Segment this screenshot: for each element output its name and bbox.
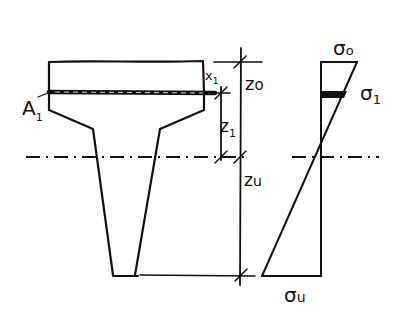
label-zu: zu <box>244 170 262 190</box>
label-z0: zo <box>245 73 264 94</box>
labels: A1 x1 zo z1 zu σo σ1 σu <box>22 36 381 307</box>
label-a1: A1 <box>22 96 43 124</box>
label-x1: x1 <box>205 68 218 86</box>
label-a1-leader <box>38 93 48 97</box>
web-right <box>135 129 160 275</box>
dim-line-z0-zu <box>240 48 241 285</box>
stress-diagram <box>262 62 357 276</box>
tick-bottom <box>235 269 247 281</box>
label-z1: z1 <box>220 116 236 140</box>
label-sigma-1: σ1 <box>360 81 381 107</box>
stress-layer-band <box>321 91 347 98</box>
web-left <box>49 110 113 275</box>
label-sigma-u: σu <box>284 283 306 307</box>
dimension-lines <box>140 48 262 285</box>
flange-right-lower <box>160 93 204 129</box>
label-sigma-o: σo <box>333 36 354 60</box>
diagram-canvas: A1 x1 zo z1 zu σo σ1 σu <box>0 0 404 316</box>
dim-ext-bottom <box>140 275 255 276</box>
flange-outline <box>49 61 204 110</box>
cross-section <box>49 61 215 276</box>
